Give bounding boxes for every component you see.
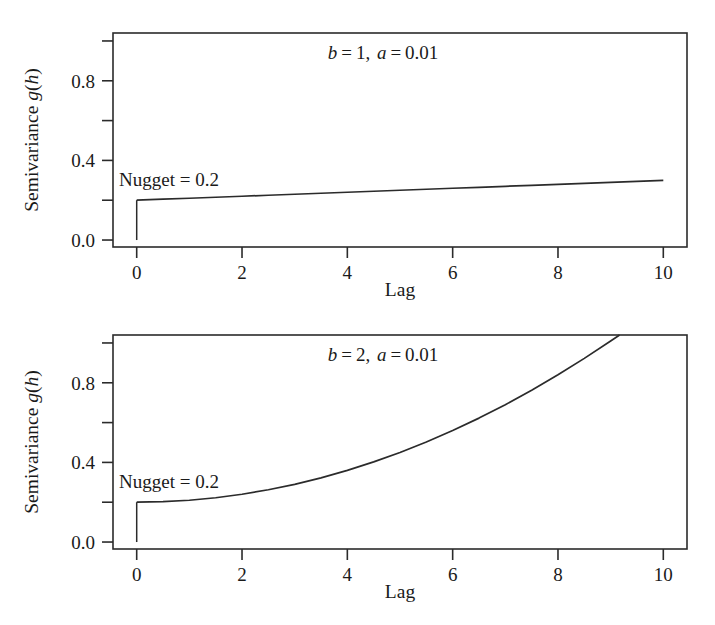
chart-panel-top: 0.00.40.8 0246810 b=1, a=0.01 Nugget = 0… bbox=[0, 0, 715, 312]
x-tick-label-bottom-2: 4 bbox=[343, 564, 353, 585]
y-tick-label-top-1: 0.4 bbox=[71, 150, 95, 171]
x-tick-label-top-3: 6 bbox=[448, 262, 458, 283]
semivariogram-figure: 0.00.40.8 0246810 b=1, a=0.01 Nugget = 0… bbox=[0, 0, 715, 625]
title-a-value-top: 0.01 bbox=[405, 42, 438, 63]
x-axis-title-bottom: Lag bbox=[385, 581, 416, 602]
x-axis-title-top: Lag bbox=[385, 279, 416, 300]
panel-title-top: b=1, a=0.01 bbox=[328, 42, 439, 63]
plot-frame-top bbox=[113, 33, 687, 247]
title-b-symbol-bottom: b bbox=[328, 344, 338, 365]
ylabel-prefix-bottom: Semivariance bbox=[21, 403, 42, 514]
title-a-value-bottom: 0.01 bbox=[405, 344, 438, 365]
y-tick-labels-bottom: 0.00.40.8 bbox=[71, 373, 95, 553]
ylabel-close-bottom: ) bbox=[21, 370, 43, 377]
panel-title-bottom: b=2, a=0.01 bbox=[328, 344, 439, 365]
chart-svg-top: 0.00.40.8 0246810 b=1, a=0.01 Nugget = 0… bbox=[0, 0, 715, 312]
y-tick-label-top-0: 0.0 bbox=[71, 230, 95, 251]
title-b-value-top: 1 bbox=[356, 42, 366, 63]
x-tick-label-bottom-3: 6 bbox=[448, 564, 458, 585]
plot-box-top bbox=[113, 33, 687, 247]
y-tick-label-bottom-2: 0.8 bbox=[71, 373, 95, 394]
x-tick-label-top-4: 8 bbox=[553, 262, 563, 283]
chart-panel-bottom: 0.00.40.8 0246810 b=2, a=0.01 Nugget = 0… bbox=[0, 312, 715, 625]
title-sep-bottom: , bbox=[365, 344, 375, 365]
title-a-symbol-top: a bbox=[377, 42, 387, 63]
title-eq2-bottom: = bbox=[390, 344, 401, 365]
ylabel-g-symbol-top: g bbox=[21, 91, 42, 101]
y-axis-ticks-bottom bbox=[102, 343, 113, 542]
ylabel-close-top: ) bbox=[21, 68, 43, 75]
nugget-annotation-bottom: Nugget = 0.2 bbox=[119, 471, 219, 492]
ylabel-prefix-top: Semivariance bbox=[21, 101, 42, 212]
y-tick-label-bottom-1: 0.4 bbox=[71, 452, 95, 473]
ylabel-h-symbol-bottom: h bbox=[21, 377, 42, 387]
y-tick-label-top-2: 0.8 bbox=[71, 71, 95, 92]
title-sep-top: , bbox=[365, 42, 375, 63]
y-tick-labels-top: 0.00.40.8 bbox=[71, 71, 95, 251]
y-axis-ticks-top bbox=[102, 41, 113, 240]
x-axis-ticks-top bbox=[137, 247, 664, 258]
y-axis-title-top: Semivariance g(h) bbox=[21, 68, 43, 212]
title-b-value-bottom: 2 bbox=[356, 344, 366, 365]
x-tick-label-bottom-5: 10 bbox=[654, 564, 673, 585]
x-axis-ticks-bottom bbox=[137, 549, 664, 560]
title-b-symbol-top: b bbox=[328, 42, 338, 63]
ylabel-h-symbol-top: h bbox=[21, 75, 42, 85]
plot-frame-bottom bbox=[113, 335, 687, 549]
y-axis-title-bottom: Semivariance g(h) bbox=[21, 370, 43, 514]
nugget-annotation-top: Nugget = 0.2 bbox=[119, 169, 219, 190]
chart-svg-bottom: 0.00.40.8 0246810 b=2, a=0.01 Nugget = 0… bbox=[0, 312, 715, 625]
title-eq2-top: = bbox=[390, 42, 401, 63]
plot-box-bottom bbox=[113, 335, 687, 549]
x-tick-label-top-5: 10 bbox=[654, 262, 673, 283]
x-tick-label-bottom-0: 0 bbox=[132, 564, 142, 585]
title-eq1-bottom: = bbox=[341, 344, 352, 365]
title-a-symbol-bottom: a bbox=[377, 344, 387, 365]
title-eq1-top: = bbox=[341, 42, 352, 63]
x-tick-label-top-1: 2 bbox=[237, 262, 247, 283]
x-tick-label-top-2: 4 bbox=[343, 262, 353, 283]
x-tick-label-top-0: 0 bbox=[132, 262, 142, 283]
y-tick-label-bottom-0: 0.0 bbox=[71, 532, 95, 553]
x-tick-label-bottom-1: 2 bbox=[237, 564, 247, 585]
ylabel-g-symbol-bottom: g bbox=[21, 393, 42, 403]
x-tick-label-bottom-4: 8 bbox=[553, 564, 563, 585]
